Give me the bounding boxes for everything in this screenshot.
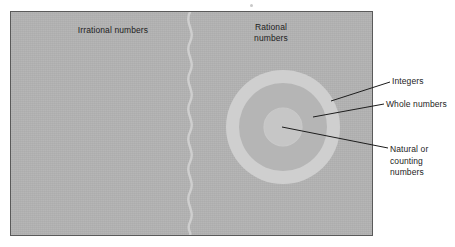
leader-integers	[331, 82, 390, 101]
number-classification-figure: Irrational numbers Rational numbers Inte…	[0, 0, 455, 247]
wavy-divider	[188, 12, 191, 235]
label-whole-numbers: Whole numbers	[386, 99, 455, 111]
label-rational-numbers: Rational numbers	[226, 22, 316, 44]
label-integers: Integers	[392, 76, 454, 88]
label-natural-numbers: Natural or counting numbers	[390, 144, 454, 179]
label-irrational-numbers: Irrational numbers	[48, 25, 178, 36]
